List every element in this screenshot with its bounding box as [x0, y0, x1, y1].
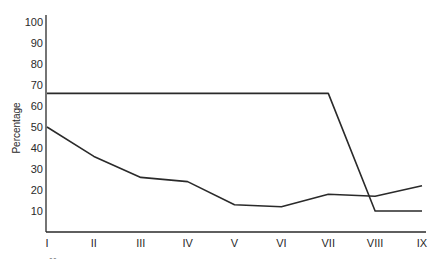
y-axis-title: Percentage [11, 102, 22, 154]
y-tick-label: 90 [31, 37, 43, 49]
x-tick-label: VI [276, 237, 286, 249]
y-axis-tick-labels: 102030405060708090100 [25, 16, 43, 217]
y-tick-label: 80 [31, 58, 43, 70]
y-tick-label: 70 [31, 79, 43, 91]
y-tick-label: 60 [31, 100, 43, 112]
y-tick-label: 40 [31, 142, 43, 154]
x-tick-label: IX [417, 237, 428, 249]
y-tick-label: 20 [31, 184, 43, 196]
line-chart: 102030405060708090100 IIIIIIIVVVIVIIVIII… [0, 0, 440, 259]
series-lines [47, 93, 422, 211]
lower-series-line [47, 127, 422, 207]
figure-caption-cropped: —— •• [8, 252, 57, 259]
x-tick-label: II [91, 237, 97, 249]
y-tick-label: 50 [31, 121, 43, 133]
x-tick-label: V [231, 237, 239, 249]
upper-series-line [47, 93, 422, 211]
x-tick-label: III [136, 237, 145, 249]
y-tick-label: 10 [31, 205, 43, 217]
x-tick-label: I [45, 237, 48, 249]
x-tick-label: VIII [367, 237, 384, 249]
x-tick-label: VII [322, 237, 335, 249]
y-tick-label: 30 [31, 163, 43, 175]
x-axis-tick-labels: IIIIIIIVVVIVIIVIIIIX [45, 237, 427, 249]
y-tick-label: 100 [25, 16, 43, 28]
x-tick-label: IV [182, 237, 193, 249]
